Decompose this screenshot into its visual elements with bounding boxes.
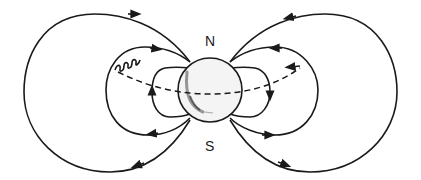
earth-globe xyxy=(178,58,242,122)
middle-field-loop-right xyxy=(230,47,318,135)
south-pole-label: S xyxy=(205,138,214,154)
outer-field-loop-right xyxy=(230,14,397,172)
outer-field-loop-left xyxy=(24,14,190,172)
north-pole-label: N xyxy=(205,33,215,49)
spiraling-particle-trajectory xyxy=(115,60,140,72)
drift-arrow xyxy=(290,66,300,67)
